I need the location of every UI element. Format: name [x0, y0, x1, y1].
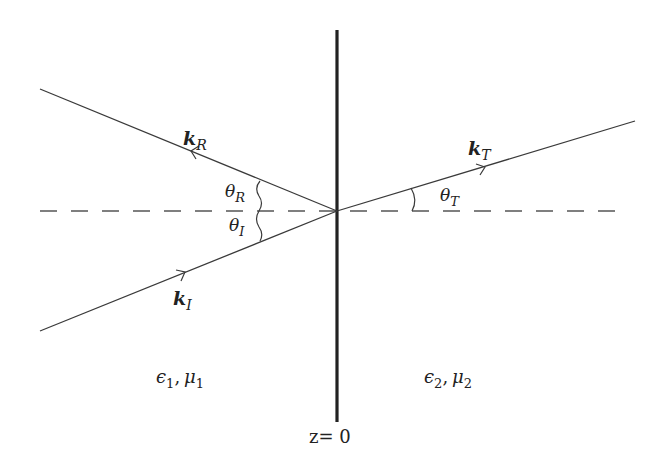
- incident-ray: [40, 211, 337, 331]
- thetaT-label: θT: [440, 185, 460, 209]
- transmitted-ray: [337, 121, 635, 211]
- transmitted-arrow-icon: [476, 164, 485, 175]
- thetaI-label: θI: [229, 215, 245, 239]
- medium-1-label: ϵ1,μ1: [156, 366, 204, 391]
- medium-2-label: ϵ2,μ2: [424, 366, 472, 391]
- interface-label: z= 0: [309, 426, 351, 447]
- theta-i-arc: [257, 211, 262, 241]
- thetaR-label: θR: [225, 181, 245, 205]
- kI-label: kI: [173, 287, 192, 313]
- reflected-ray: [40, 89, 337, 211]
- diagram-canvas: kR kI kT θR θI θT ϵ1,μ1 ϵ2,μ2 z= 0: [0, 0, 662, 466]
- kT-label: kT: [468, 137, 492, 163]
- theta-r-arc: [257, 181, 262, 211]
- theta-t-arc: [411, 188, 415, 211]
